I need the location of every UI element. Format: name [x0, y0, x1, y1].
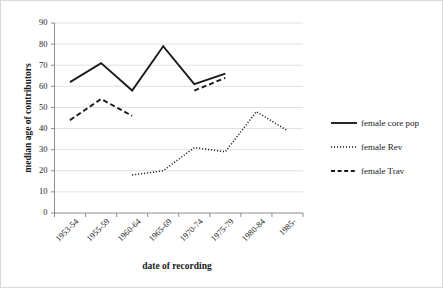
x-tick-label: 1965-69 [147, 216, 174, 243]
x-tick-label: 1970-74 [178, 216, 206, 244]
x-tick-label: 1953-54 [53, 216, 81, 244]
x-axis-title: date of recording [142, 261, 212, 271]
line-chart-svg: 0102030405060708090 1953-541955-591960-6… [1, 1, 443, 288]
x-tick-label: 1980-84 [240, 216, 268, 244]
x-axis-tick-marks [55, 213, 304, 217]
legend: female core popfemale Revfemale Trav [331, 118, 419, 176]
legend-label: female Trav [361, 166, 405, 176]
gridlines-group [55, 23, 304, 192]
x-tick-label: 1960-64 [115, 216, 143, 244]
x-tick-label: 1985- [277, 216, 298, 237]
y-tick-label: 30 [39, 144, 48, 154]
x-tick-label: 1975-79 [209, 216, 236, 243]
y-tick-label: 70 [39, 60, 48, 70]
y-axis-title: median age of contributors [23, 63, 33, 173]
y-tick-label: 60 [39, 81, 48, 91]
chart-plot-container: 0102030405060708090 1953-541955-591960-6… [1, 1, 443, 288]
y-tick-label: 20 [39, 165, 48, 175]
legend-label: female core pop [361, 118, 419, 128]
y-tick-label: 10 [39, 186, 48, 196]
y-tick-label: 80 [39, 39, 48, 49]
y-axis-tick-labels: 0102030405060708090 [39, 17, 48, 217]
y-tick-label: 40 [39, 123, 48, 133]
y-tick-label: 0 [43, 207, 47, 217]
x-tick-label: 1955-59 [84, 216, 111, 243]
series-line-female-trav-segment-1 [70, 99, 132, 120]
x-axis-tick-labels: 1953-541955-591960-641965-691970-741975-… [53, 216, 298, 244]
y-tick-label: 50 [39, 102, 48, 112]
series-line-female-rev [132, 112, 287, 175]
legend-label: female Rev [361, 142, 403, 152]
series-line-female-core-pop [70, 46, 225, 90]
y-axis-tick-marks [51, 23, 55, 213]
y-tick-label: 90 [39, 17, 48, 27]
chart-figure: 0102030405060708090 1953-541955-591960-6… [0, 0, 443, 288]
